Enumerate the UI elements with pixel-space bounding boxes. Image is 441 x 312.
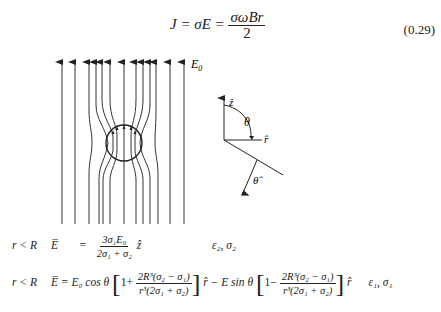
condition: r < R <box>12 239 48 251</box>
theta-label: θ <box>244 115 250 129</box>
region-label: ε₂, σ₂ <box>212 239 236 251</box>
field-diagram: E0 ẑ θ r̂ θ̂ <box>0 0 441 312</box>
e-field-symbol: E̅ <box>51 239 71 251</box>
e0-label: E0 <box>190 57 202 73</box>
equation-outside: r < R E̅ = E₀ cos θ [1+ 2R³(σ₂ − σ₁) r³(… <box>12 270 392 297</box>
r-hat-label: r̂ <box>264 133 269 145</box>
region-label: ε₁, σ₁ <box>368 276 392 288</box>
equation-inside: r < R E̅ = 3σ₁E₀ 2σ₁ + σ₂ ẑ ε₂, σ₂ <box>12 233 141 260</box>
theta-hat-label: θ̂ <box>253 174 263 186</box>
field-lines <box>62 62 184 224</box>
z-hat-label: ẑ <box>228 96 234 108</box>
inside-fraction: 3σ₁E₀ 2σ₁ + σ₂ <box>95 233 134 260</box>
